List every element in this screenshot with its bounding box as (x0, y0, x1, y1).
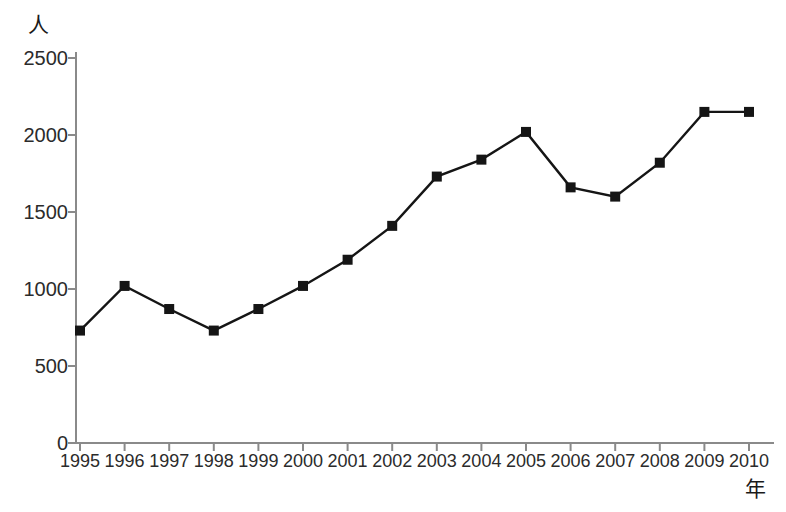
data-point-marker (209, 326, 219, 336)
line-chart-plot (0, 0, 786, 512)
data-line (80, 112, 749, 331)
data-point-marker (120, 281, 130, 291)
y-tick-label: 2500 (6, 48, 68, 68)
data-point-marker (298, 281, 308, 291)
data-point-marker (432, 172, 442, 182)
axis-lines (76, 52, 774, 443)
data-point-marker (521, 127, 531, 137)
y-tick-label: 2000 (6, 125, 68, 145)
data-point-marker (164, 304, 174, 314)
x-tick-label: 2010 (721, 452, 777, 470)
data-point-marker (655, 158, 665, 168)
data-point-marker (610, 192, 620, 202)
y-axis-ticks (68, 58, 76, 443)
data-point-marker (476, 155, 486, 165)
y-tick-label: 1500 (6, 202, 68, 222)
data-point-marker (699, 107, 709, 117)
chart-container: 人 05001000150020002500 19951996199719981… (0, 0, 786, 512)
data-point-marker (253, 304, 263, 314)
data-point-marker (566, 182, 576, 192)
y-tick-label: 500 (6, 356, 68, 376)
data-point-marker (75, 326, 85, 336)
y-tick-label: 1000 (6, 279, 68, 299)
y-tick-label: 0 (6, 433, 68, 453)
data-point-marker (343, 255, 353, 265)
data-point-marker (744, 107, 754, 117)
data-markers (75, 107, 754, 336)
x-axis-unit-label: 年 (745, 478, 766, 499)
x-axis-ticks (80, 443, 749, 451)
data-point-marker (387, 221, 397, 231)
